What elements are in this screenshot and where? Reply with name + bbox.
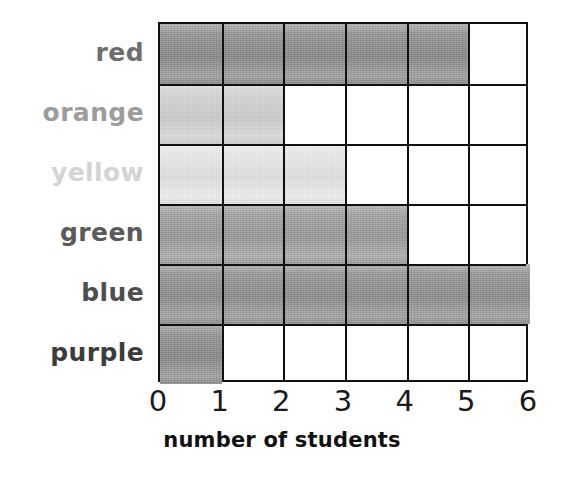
bar-sheen [160,144,345,204]
category-label-green: green [0,202,148,262]
category-axis-labels: redorangeyellowgreenbluepurple [0,22,150,382]
category-label-text: yellow [51,160,148,185]
bar-sheen [160,324,222,384]
category-label-blue: blue [0,262,148,322]
bar-row-orange [160,84,526,144]
grid-row-divider [160,204,526,206]
x-axis-tick-labels: 0123456 [158,386,528,424]
x-tick-3: 3 [321,386,365,416]
x-tick-0: 0 [136,386,180,416]
bar-chart: redorangeyellowgreenbluepurple 0123456 n… [0,0,564,481]
grid-row-divider [160,144,526,146]
grid-row-divider [160,264,526,266]
bar-row-blue [160,264,526,324]
bar-red [160,24,468,84]
x-axis-title: number of students [0,428,564,452]
category-label-red: red [0,22,148,82]
bar-sheen [160,24,468,84]
x-tick-5: 5 [444,386,488,416]
bar-purple [160,324,222,384]
bar-row-red [160,24,526,84]
category-label-text: orange [43,100,148,125]
category-label-yellow: yellow [0,142,148,202]
category-label-text: red [96,40,148,65]
x-tick-4: 4 [383,386,427,416]
bar-yellow [160,144,345,204]
grid-row-divider [160,324,526,326]
category-label-text: green [60,220,148,245]
x-tick-1: 1 [198,386,242,416]
x-tick-6: 6 [506,386,550,416]
category-label-text: purple [50,340,148,365]
grid-col-divider [283,24,285,380]
plot-area [158,22,528,382]
category-label-purple: purple [0,322,148,382]
bar-row-yellow [160,144,526,204]
grid-col-divider [407,24,409,380]
grid-row-divider [160,84,526,86]
bar-row-green [160,204,526,264]
grid-col-divider [345,24,347,380]
grid-col-divider [222,24,224,380]
x-tick-2: 2 [259,386,303,416]
category-label-orange: orange [0,82,148,142]
category-label-text: blue [81,280,148,305]
bar-row-purple [160,324,526,384]
grid-col-divider [468,24,470,380]
